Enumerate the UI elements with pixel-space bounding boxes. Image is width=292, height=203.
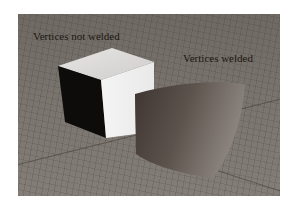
label-vertices-not-welded: Vertices not welded <box>33 30 120 42</box>
welded-cube <box>135 82 245 179</box>
label-vertices-welded: Vertices welded <box>183 52 253 64</box>
3d-viewport: Vertices not welded Vertices welded <box>18 14 280 196</box>
